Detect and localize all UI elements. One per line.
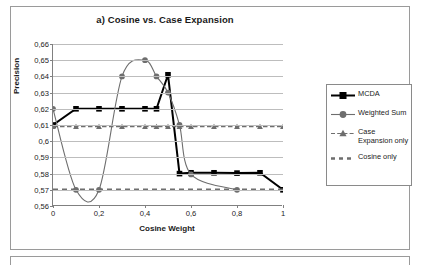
y-axis-tick-mark	[50, 76, 53, 77]
plot-area: 0,560,570,580,590,60,610,620,630,640,650…	[52, 44, 282, 206]
legend-label: Weighted Sum	[356, 108, 406, 117]
legend-item-mcda: MCDA	[327, 89, 411, 101]
gridline	[53, 76, 283, 77]
x-axis-tick-label: 0,4	[140, 209, 151, 218]
y-axis-tick-mark	[50, 157, 53, 158]
y-axis-tick-label: 0,61	[34, 121, 49, 130]
gridline	[53, 174, 283, 175]
legend-label: Case Expansion only	[356, 127, 411, 145]
gridline	[53, 157, 283, 158]
y-axis-tick-mark	[50, 44, 53, 45]
gridline	[53, 141, 283, 142]
x-axis-tick-mark	[145, 205, 146, 208]
chart-legend: MCDA Weighted Sum Case Expansion only	[326, 84, 412, 186]
y-axis-tick-label: 0,66	[34, 40, 49, 49]
legend-swatch-square-icon	[330, 90, 356, 101]
legend-swatch-circle-icon	[330, 109, 356, 120]
y-axis-tick-label: 0,56	[34, 202, 49, 211]
x-axis-tick-mark	[99, 205, 100, 208]
legend-item-cosine-only: Cosine only	[327, 152, 411, 164]
gridline	[53, 60, 283, 61]
chart-title: a) Cosine vs. Case Expansion	[0, 14, 330, 25]
y-axis-title: Precision	[12, 58, 21, 94]
y-axis-tick-label: 0,63	[34, 88, 49, 97]
x-axis-tick-label: 0	[51, 209, 55, 218]
gridline	[53, 93, 283, 94]
y-axis-tick-label: 0,6	[38, 137, 49, 146]
x-axis-tick-mark	[191, 205, 192, 208]
x-axis-tick-mark	[283, 205, 284, 208]
y-axis-tick-label: 0,64	[34, 72, 49, 81]
x-axis-tick-label: 0,8	[232, 209, 243, 218]
y-axis-tick-mark	[50, 190, 53, 191]
gridline	[53, 190, 283, 191]
x-axis-tick-label: 0,6	[186, 209, 197, 218]
x-axis-tick-label: 0,2	[94, 209, 105, 218]
x-axis-title: Cosine Weight	[52, 224, 282, 233]
x-axis-tick-label: 1	[281, 209, 285, 218]
legend-swatch-triangle-icon	[330, 128, 356, 139]
legend-label: MCDA	[356, 89, 380, 98]
legend-item-case-expansion-only: Case Expansion only	[327, 127, 411, 145]
y-axis-tick-label: 0,65	[34, 56, 49, 65]
legend-swatch-dashed-icon	[330, 153, 356, 164]
y-axis-tick-mark	[50, 93, 53, 94]
gridline	[53, 44, 283, 45]
y-axis-tick-mark	[50, 174, 53, 175]
y-axis-tick-mark	[50, 141, 53, 142]
x-axis-tick-mark	[237, 205, 238, 208]
y-axis-tick-label: 0,59	[34, 153, 49, 162]
chart-page: a) Cosine vs. Case Expansion Precision C…	[0, 0, 422, 265]
gridline	[53, 125, 283, 126]
gridline	[53, 109, 283, 110]
y-axis-tick-mark	[50, 60, 53, 61]
y-axis-tick-mark	[50, 125, 53, 126]
y-axis-tick-label: 0,58	[34, 169, 49, 178]
y-axis-tick-mark	[50, 109, 53, 110]
legend-label: Cosine only	[356, 152, 397, 161]
y-axis-tick-label: 0,62	[34, 104, 49, 113]
series-weighted-sum	[53, 57, 240, 202]
next-section-frame	[10, 256, 410, 265]
x-axis-tick-mark	[53, 205, 54, 208]
y-axis-tick-label: 0,57	[34, 185, 49, 194]
legend-item-weighted-sum: Weighted Sum	[327, 108, 411, 120]
